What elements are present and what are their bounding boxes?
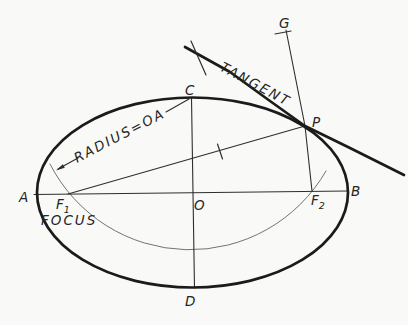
diagram-canvas: A B C D O P G F1 F2 FOCUS TANGENT RADIUS…	[0, 0, 408, 325]
label-a: A	[18, 189, 28, 205]
label-c: C	[185, 82, 195, 98]
focus-locating-arc	[50, 164, 326, 250]
ellipse-construction-diagram: A B C D O P G F1 F2 FOCUS TANGENT RADIUS…	[0, 0, 408, 325]
label-radius-note: RADIUS=OA	[71, 105, 168, 166]
radius-arrowhead-icon	[56, 164, 65, 170]
radius-leader-line	[166, 99, 189, 112]
label-d: D	[185, 293, 195, 309]
label-focus: FOCUS	[41, 212, 97, 228]
label-g: G	[279, 15, 289, 31]
major-axis-line	[34, 191, 348, 195]
label-p: P	[312, 114, 321, 130]
label-f2: F2	[311, 192, 325, 211]
midpoint-tick	[218, 144, 223, 159]
g-tick	[275, 31, 291, 34]
label-tangent: TANGENT	[218, 59, 294, 110]
tangent-line	[185, 47, 404, 175]
label-b: B	[351, 183, 360, 199]
normal-line-g-f2	[286, 30, 312, 191]
label-o: O	[194, 197, 205, 213]
label-f2-subscript: 2	[319, 200, 325, 211]
